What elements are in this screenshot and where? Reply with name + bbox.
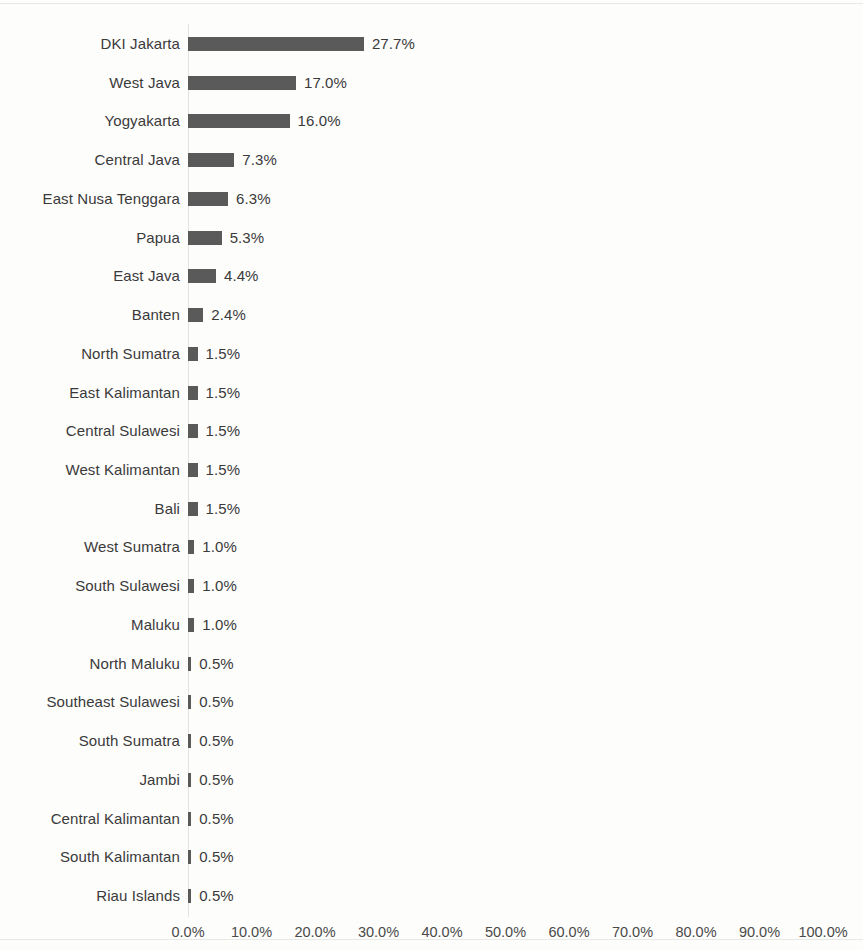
bar-row: Central Java7.3% (0, 145, 863, 175)
bar (188, 386, 198, 400)
x-axis-tick-label: 90.0% (739, 922, 780, 942)
bar-row: Bali1.5% (0, 494, 863, 524)
bar-value-label: 0.5% (199, 765, 234, 795)
bar-value-label: 1.0% (202, 571, 237, 601)
bar-row: Yogyakarta16.0% (0, 106, 863, 136)
category-label: Riau Islands (0, 881, 180, 911)
bar (188, 540, 194, 554)
category-label: Central Sulawesi (0, 416, 180, 446)
category-label: Central Java (0, 145, 180, 175)
bar (188, 192, 228, 206)
category-label: North Maluku (0, 649, 180, 679)
x-axis-tick-label: 20.0% (294, 922, 335, 942)
category-label: Papua (0, 223, 180, 253)
category-label: West Sumatra (0, 532, 180, 562)
bar (188, 850, 191, 864)
category-label: East Java (0, 261, 180, 291)
bar-value-label: 1.5% (206, 494, 241, 524)
bar-row: Jambi0.5% (0, 765, 863, 795)
bar (188, 114, 290, 128)
bar-row: West Kalimantan1.5% (0, 455, 863, 485)
category-label: West Java (0, 68, 180, 98)
bar (188, 618, 194, 632)
bar-row: Papua5.3% (0, 223, 863, 253)
bar-row: South Sumatra0.5% (0, 726, 863, 756)
bar (188, 812, 191, 826)
bar-row: East Java4.4% (0, 261, 863, 291)
bar-row: Maluku1.0% (0, 610, 863, 640)
bar-row: Banten2.4% (0, 300, 863, 330)
bar-value-label: 0.5% (199, 804, 234, 834)
bar (188, 695, 191, 709)
category-label: South Sulawesi (0, 571, 180, 601)
bar (188, 657, 191, 671)
bar-value-label: 6.3% (236, 184, 271, 214)
bar-value-label: 17.0% (304, 68, 347, 98)
bar-value-label: 1.5% (206, 339, 241, 369)
bar (188, 502, 198, 516)
bar-row: West Java17.0% (0, 68, 863, 98)
x-axis-tick-label: 100.0% (798, 922, 847, 942)
category-label: South Sumatra (0, 726, 180, 756)
bar-value-label: 1.0% (202, 532, 237, 562)
x-axis-tick-label: 0.0% (171, 922, 204, 942)
bar (188, 773, 191, 787)
category-label: South Kalimantan (0, 842, 180, 872)
bar-row: East Nusa Tenggara6.3% (0, 184, 863, 214)
bar-row: Central Kalimantan0.5% (0, 804, 863, 834)
bar-row: West Sumatra1.0% (0, 532, 863, 562)
bar-value-label: 0.5% (199, 687, 234, 717)
bar (188, 889, 191, 903)
category-label: DKI Jakarta (0, 29, 180, 59)
bar-value-label: 27.7% (372, 29, 415, 59)
category-label: North Sumatra (0, 339, 180, 369)
bar (188, 579, 194, 593)
category-label: Banten (0, 300, 180, 330)
bar-value-label: 0.5% (199, 649, 234, 679)
bar-row: North Maluku0.5% (0, 649, 863, 679)
bar (188, 463, 198, 477)
bar-row: Riau Islands0.5% (0, 881, 863, 911)
category-label: Central Kalimantan (0, 804, 180, 834)
bar (188, 37, 364, 51)
bar-row: East Kalimantan1.5% (0, 378, 863, 408)
bar-value-label: 1.5% (206, 378, 241, 408)
bar (188, 153, 234, 167)
bar-value-label: 0.5% (199, 881, 234, 911)
bar-value-label: 0.5% (199, 842, 234, 872)
bar-value-label: 0.5% (199, 726, 234, 756)
bar-row: Southeast Sulawesi0.5% (0, 687, 863, 717)
category-label: Southeast Sulawesi (0, 687, 180, 717)
x-axis-tick-label: 60.0% (548, 922, 589, 942)
bar-value-label: 1.0% (202, 610, 237, 640)
bar-value-label: 4.4% (224, 261, 259, 291)
bar (188, 308, 203, 322)
bar (188, 269, 216, 283)
bar (188, 734, 191, 748)
category-label: Bali (0, 494, 180, 524)
bar-row: Central Sulawesi1.5% (0, 416, 863, 446)
bar-value-label: 5.3% (230, 223, 265, 253)
x-axis-tick-label: 70.0% (612, 922, 653, 942)
horizontal-bar-chart: DKI Jakarta27.7%West Java17.0%Yogyakarta… (0, 0, 863, 950)
category-label: West Kalimantan (0, 455, 180, 485)
x-axis-tick-label: 50.0% (485, 922, 526, 942)
bar-value-label: 1.5% (206, 455, 241, 485)
category-label: Jambi (0, 765, 180, 795)
x-axis-tick-label: 80.0% (675, 922, 716, 942)
category-label: Maluku (0, 610, 180, 640)
bar-row: South Kalimantan0.5% (0, 842, 863, 872)
bar (188, 76, 296, 90)
bar-value-label: 7.3% (242, 145, 277, 175)
category-label: Yogyakarta (0, 106, 180, 136)
bar-row: South Sulawesi1.0% (0, 571, 863, 601)
x-axis-tick-label: 10.0% (231, 922, 272, 942)
bar-value-label: 16.0% (298, 106, 341, 136)
x-axis-tick-label: 30.0% (358, 922, 399, 942)
category-label: East Nusa Tenggara (0, 184, 180, 214)
category-label: East Kalimantan (0, 378, 180, 408)
bar-row: North Sumatra1.5% (0, 339, 863, 369)
bar-value-label: 2.4% (211, 300, 246, 330)
bar-value-label: 1.5% (206, 416, 241, 446)
bar (188, 424, 198, 438)
